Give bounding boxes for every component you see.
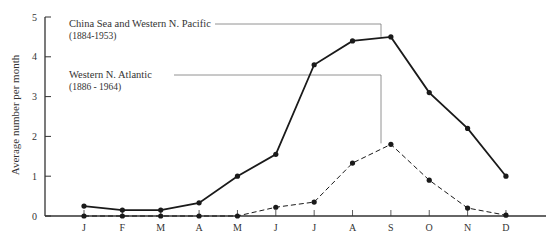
- data-point: [465, 205, 470, 210]
- x-tick-label: S: [388, 222, 394, 233]
- data-point: [503, 174, 508, 179]
- data-point: [273, 152, 278, 157]
- data-point: [312, 199, 317, 204]
- data-point: [120, 207, 125, 212]
- data-point: [350, 38, 355, 43]
- x-tick-label: D: [502, 222, 509, 233]
- data-point: [350, 160, 355, 165]
- pacific-annotation: China Sea and Western N. Pacific (1884-1…: [69, 17, 211, 43]
- x-tick-label: M: [233, 222, 242, 233]
- x-tick-label: A: [195, 222, 203, 233]
- x-tick-label: J: [274, 222, 278, 233]
- atlantic-annotation-period: (1886 - 1964): [69, 81, 152, 94]
- data-point: [81, 213, 86, 218]
- atlantic-annotation: Western N. Atlantic (1886 - 1964): [69, 68, 152, 94]
- y-tick-label: 1: [32, 171, 37, 182]
- pacific-annotation-period: (1884-1953): [69, 30, 211, 43]
- pacific-annotation-name: China Sea and Western N. Pacific: [69, 18, 211, 29]
- data-point: [158, 213, 163, 218]
- x-tick-label: N: [464, 222, 471, 233]
- data-point: [312, 62, 317, 67]
- data-point: [81, 203, 86, 208]
- data-point: [235, 174, 240, 179]
- data-point: [465, 126, 470, 131]
- data-point: [196, 200, 201, 205]
- y-tick-label: 5: [32, 12, 37, 23]
- data-point: [503, 213, 508, 218]
- y-tick-label: 3: [32, 91, 37, 102]
- x-tick-label: M: [156, 222, 165, 233]
- data-point: [120, 213, 125, 218]
- atlantic-annotation-name: Western N. Atlantic: [69, 69, 152, 80]
- atlantic-leader-line: [174, 75, 381, 143]
- data-point: [388, 142, 393, 147]
- data-point: [273, 205, 278, 210]
- pacific-series-line: [84, 37, 506, 210]
- x-tick-label: O: [426, 222, 433, 233]
- y-tick-label: 4: [32, 51, 37, 62]
- x-tick-label: J: [312, 222, 316, 233]
- y-tick-label: 0: [32, 211, 37, 222]
- data-point: [388, 34, 393, 39]
- data-point: [158, 207, 163, 212]
- data-point: [235, 213, 240, 218]
- series-group: [81, 34, 508, 218]
- atlantic-series-line: [84, 144, 506, 216]
- x-tick-label: A: [349, 222, 357, 233]
- data-point: [427, 90, 432, 95]
- data-point: [196, 213, 201, 218]
- y-tick-label: 2: [32, 131, 37, 142]
- data-point: [427, 178, 432, 183]
- x-tick-label: J: [82, 222, 86, 233]
- pacific-leader-line: [215, 24, 381, 37]
- x-tick-label: F: [120, 222, 126, 233]
